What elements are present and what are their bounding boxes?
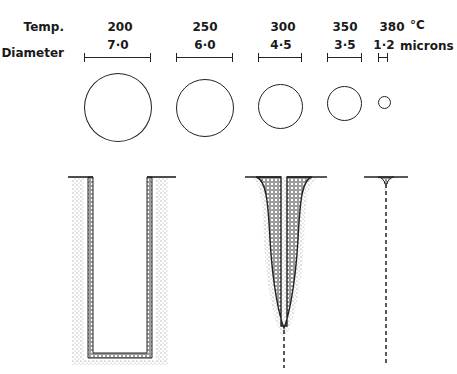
cross-section-300 <box>245 177 327 368</box>
cross-section-figures <box>0 0 457 374</box>
cross-section-200 <box>68 177 176 365</box>
cross-section-380 <box>364 177 408 366</box>
